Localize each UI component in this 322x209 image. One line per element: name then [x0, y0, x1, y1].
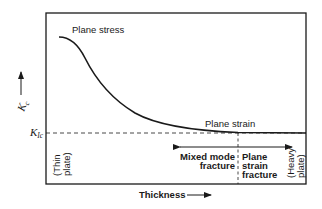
- svg-text:KIc: KIc: [29, 126, 44, 140]
- kic-label: KIc: [29, 126, 44, 140]
- svg-text:plate): plate): [61, 152, 72, 176]
- svg-text:plate): plate): [295, 154, 306, 178]
- fracture-toughness-diagram: Kc KIc Plane stress Plane strain (Thin p…: [0, 0, 322, 209]
- svg-text:fracture: fracture: [200, 160, 235, 171]
- thin-plate-label: (Thin plate): [51, 152, 72, 176]
- plane-strain-label: Plane strain: [205, 118, 255, 129]
- x-axis-label: Thickness: [139, 189, 185, 200]
- svg-text:Kc: Kc: [14, 98, 31, 114]
- heavy-plate-label: (Heavy plate): [285, 148, 306, 178]
- mixed-mode-label: Mixed mode fracture: [180, 151, 235, 171]
- svg-text:fracture: fracture: [242, 169, 277, 180]
- plane-stress-label: Plane stress: [72, 24, 125, 35]
- y-axis-label: Kc: [14, 98, 31, 114]
- plane-strain-fracture-label: Plane strain fracture: [242, 151, 277, 180]
- toughness-curve: [59, 37, 306, 133]
